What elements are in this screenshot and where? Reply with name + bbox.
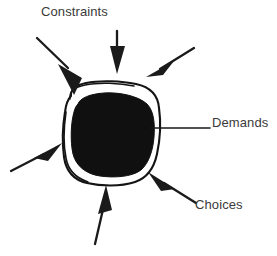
arrow-bottom-right-head xyxy=(148,172,175,191)
arrow-bottom-head xyxy=(98,185,112,214)
blob-fill-path xyxy=(71,93,154,177)
arrow-left xyxy=(11,143,62,171)
arrow-left-head xyxy=(34,143,62,161)
arrow-top-right xyxy=(146,48,194,77)
arrow-top-center-head xyxy=(110,46,125,74)
label-choices: Choices xyxy=(195,198,243,212)
arrow-bottom xyxy=(95,185,112,244)
arrow-top-left-head xyxy=(58,64,82,95)
arrow-top-left xyxy=(37,38,82,95)
label-constraints: Constraints xyxy=(41,5,108,19)
arrow-bottom-right xyxy=(148,172,196,203)
arrow-top-right-shaft xyxy=(160,48,194,69)
arrow-top-left-shaft xyxy=(37,38,68,68)
label-demands: Demands xyxy=(212,116,268,130)
arrow-top-right-head xyxy=(146,61,174,77)
arrow-top-center xyxy=(110,31,125,74)
blob-fill-group xyxy=(71,93,154,177)
diagram-canvas: Constraints Demands Choices xyxy=(0,0,277,256)
